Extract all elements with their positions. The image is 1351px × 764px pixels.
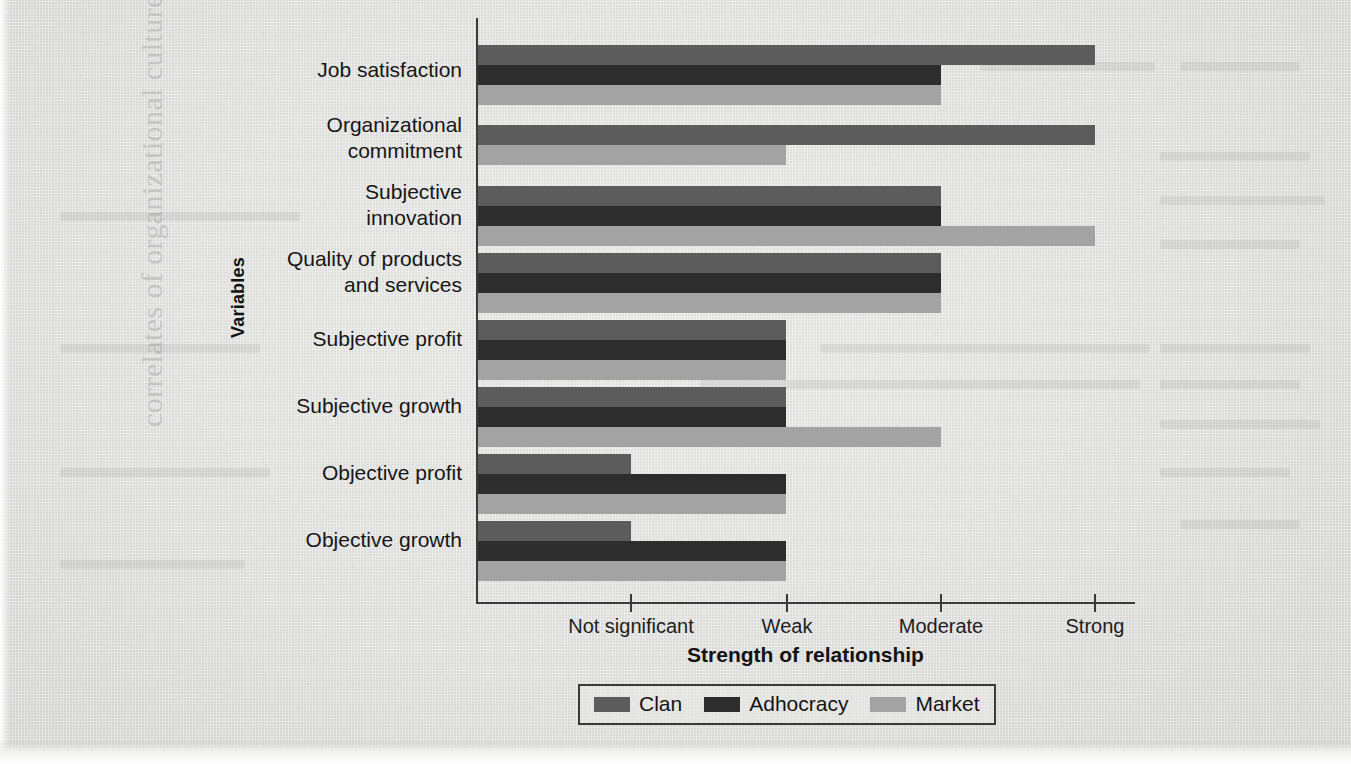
bar-clan: [476, 45, 1095, 65]
bar-market: [476, 85, 941, 105]
legend-swatch-adhocracy-icon: [704, 697, 740, 712]
bar-group: [476, 320, 1135, 380]
scanned-page: correlates of organizational culture Var…: [0, 0, 1351, 764]
bar-group: [476, 186, 1135, 246]
y-tick-label: Subjective profit: [236, 326, 462, 352]
bar-clan: [476, 387, 786, 407]
bar-market: [476, 427, 941, 447]
y-tick-label: Quality of products and services: [236, 246, 462, 298]
legend-label-market: Market: [915, 692, 979, 716]
bar-group: [476, 253, 1135, 313]
y-tick-label: Subjective innovation: [236, 179, 462, 231]
legend-swatch-clan-icon: [594, 697, 630, 712]
x-axis-tick: [786, 594, 788, 612]
bar-group: [476, 521, 1135, 581]
x-axis-tick: [940, 594, 942, 612]
x-axis-line: [476, 602, 1135, 604]
y-axis-line: [476, 18, 478, 603]
legend-label-adhocracy: Adhocracy: [749, 692, 848, 716]
bar-clan: [476, 454, 631, 474]
bar-adhocracy: [476, 273, 941, 293]
bar-market: [476, 561, 786, 581]
x-tick-label: Strong: [1066, 615, 1125, 638]
bar-group: [476, 454, 1135, 514]
page-left-edge: [0, 0, 10, 764]
bar-adhocracy: [476, 206, 941, 226]
x-tick-label: Not significant: [568, 615, 694, 638]
bar-adhocracy: [476, 65, 941, 85]
legend-item-adhocracy: Adhocracy: [704, 692, 848, 716]
bar-market: [476, 494, 786, 514]
bar-market: [476, 226, 1095, 246]
page-bottom-edge: [0, 742, 1351, 764]
legend-label-clan: Clan: [639, 692, 682, 716]
x-axis-tick: [1094, 594, 1096, 612]
legend-item-clan: Clan: [594, 692, 682, 716]
chart-legend: Clan Adhocracy Market: [578, 684, 996, 725]
y-tick-label: Organizational commitment: [236, 112, 462, 164]
y-tick-label: Objective profit: [236, 460, 462, 486]
legend-item-market: Market: [870, 692, 979, 716]
bar-clan: [476, 521, 631, 541]
bar-group: [476, 45, 1135, 105]
plot-area: [476, 18, 1135, 603]
grouped-horizontal-bar-chart: Variables Job satisfaction Organizationa…: [0, 0, 1351, 764]
bar-clan: [476, 253, 941, 273]
bar-clan: [476, 186, 941, 206]
bar-adhocracy: [476, 407, 786, 427]
bar-market: [476, 360, 786, 380]
x-tick-label: Weak: [762, 615, 813, 638]
y-tick-label: Subjective growth: [236, 393, 462, 419]
x-axis-title: Strength of relationship: [476, 643, 1135, 667]
bar-clan: [476, 320, 786, 340]
x-axis-tick: [630, 594, 632, 612]
bar-adhocracy: [476, 474, 786, 494]
bar-adhocracy: [476, 340, 786, 360]
bar-adhocracy: [476, 541, 786, 561]
bar-group: [476, 387, 1135, 447]
legend-swatch-market-icon: [870, 697, 906, 712]
bar-clan: [476, 125, 1095, 145]
y-tick-label: Job satisfaction: [236, 57, 462, 83]
bar-group: [476, 125, 1135, 165]
y-tick-label: Objective growth: [236, 527, 462, 553]
bar-market: [476, 293, 941, 313]
x-tick-label: Moderate: [899, 615, 984, 638]
bar-market: [476, 145, 786, 165]
